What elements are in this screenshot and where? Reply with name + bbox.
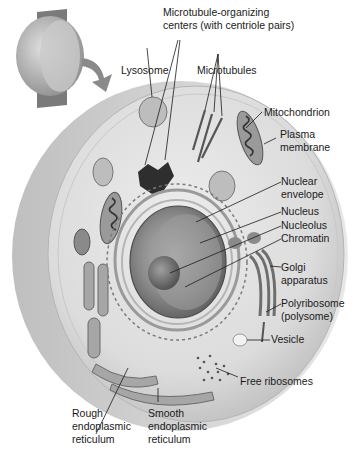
label-vesicle: Vesicle xyxy=(271,333,304,345)
nucleus xyxy=(130,206,226,318)
label-polyribosome-line1: Polyribosome xyxy=(281,297,345,309)
label-microtubules: Microtubules xyxy=(197,64,257,76)
label-rough-er-line1: Rough xyxy=(72,407,103,419)
label-lysosome: Lysosome xyxy=(121,64,169,76)
label-rough-er-line2: endoplasmic xyxy=(72,420,131,432)
label-nucleus: Nucleus xyxy=(281,205,319,217)
cell-diagram: Microtubule-organizing centers (with cen… xyxy=(0,0,355,454)
arrow-icon xyxy=(82,58,112,92)
label-plasma-membrane-line1: Plasma xyxy=(280,128,315,140)
label-golgi-line1: Golgi xyxy=(281,261,306,273)
label-free-ribosomes: Free ribosomes xyxy=(240,375,313,387)
label-nuclear-envelope-line1: Nuclear xyxy=(281,175,318,187)
label-golgi-line2: apparatus xyxy=(281,274,328,286)
label-smooth-er-line3: reticulum xyxy=(148,433,191,445)
label-nucleolus: Nucleolus xyxy=(281,219,327,231)
label-mitochondrion: Mitochondrion xyxy=(264,106,330,118)
label-smooth-er-line1: Smooth xyxy=(148,407,184,419)
label-nuclear-envelope-line2: envelope xyxy=(281,188,324,200)
label-polyribosome-line2: (polysome) xyxy=(281,310,333,322)
label-plasma-membrane-line2: membrane xyxy=(280,141,330,153)
label-smooth-er-line2: endoplasmic xyxy=(148,420,207,432)
label-mtoc-line1: Microtubule-organizing xyxy=(163,6,269,18)
label-chromatin: Chromatin xyxy=(281,232,330,244)
vesicle xyxy=(233,334,247,346)
label-rough-er-line3: reticulum xyxy=(72,433,115,445)
inset-sphere-icon xyxy=(16,9,84,108)
label-mtoc-line2: centers (with centriole pairs) xyxy=(163,19,294,31)
